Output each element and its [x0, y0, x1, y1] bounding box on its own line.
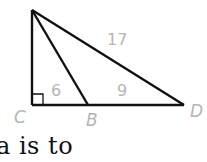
point-label-D: D [190, 101, 203, 121]
label-AD: 17 [107, 30, 127, 49]
label-BD: 9 [117, 81, 127, 100]
point-label-C: C [14, 107, 26, 127]
caption-text: a is to [0, 132, 73, 160]
label-CB: 6 [51, 81, 61, 100]
right-angle-marker [32, 94, 43, 105]
point-label-B: B [86, 110, 98, 130]
